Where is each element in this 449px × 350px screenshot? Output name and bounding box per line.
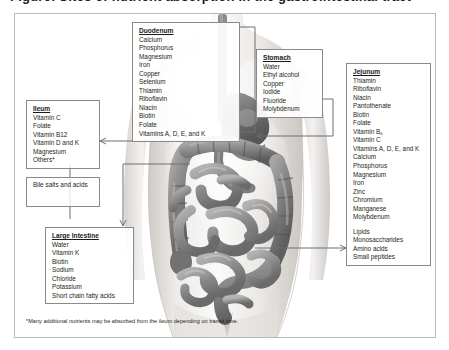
callout-ileum-item: Vitamin B12: [33, 131, 94, 140]
callout-stomach-item: Fluoride: [263, 97, 317, 106]
callout-jejunum: Jejunum Thiamin Riboflavin Niacin Pantot…: [346, 63, 431, 266]
callout-jejunum-item2: Amino acids: [353, 245, 425, 254]
callout-duodenum-item: Magnesium: [139, 53, 234, 62]
callout-jejunum-item: Molybdenum: [353, 213, 425, 222]
callout-duodenum: Duodenum Calcium Phosphorus Magnesium Ir…: [132, 22, 240, 142]
callout-duodenum-item: Vitamins A, D, E, and K: [139, 130, 234, 139]
callout-jejunum-item: Biotin: [353, 111, 425, 120]
callout-stomach-item: Copper: [263, 80, 317, 89]
callout-jejunum-item2: Small peptides: [353, 253, 425, 262]
callout-jejunum-item: Thiamin: [353, 77, 425, 86]
callout-large-intestine-item: Chloride: [52, 275, 128, 284]
callout-large-intestine-item: Biotin: [52, 258, 128, 267]
figure-title-text: Figure: Sites of nutrient absorption in …: [10, 0, 411, 4]
callout-stomach-item: Iodide: [263, 88, 317, 97]
figure-root: Figure: Sites of nutrient absorption in …: [0, 0, 449, 350]
callout-jejunum-item: Phosphorus: [353, 162, 425, 171]
callout-jejunum-item: Calcium: [353, 153, 425, 162]
callout-large-intestine-item: Potassium: [52, 283, 128, 292]
callout-ileum-item: Folate: [33, 122, 94, 131]
callout-jejunum-item: Niacin: [353, 94, 425, 103]
callout-jejunum-item: Chromium: [353, 196, 425, 205]
callout-large-intestine: Large Intestine Water Vitamin K Biotin S…: [45, 227, 134, 304]
callout-duodenum-item: Riboflavin: [139, 95, 234, 104]
callout-jejunum-item: Vitamin C: [353, 136, 425, 145]
callout-jejunum-item: Pantothenate: [353, 102, 425, 111]
callout-jejunum-item: Vitamins A, D, E, and K: [353, 145, 425, 154]
callout-stomach-item: Water: [263, 63, 317, 72]
callout-duodenum-item: Biotin: [139, 112, 234, 121]
callout-duodenum-item: Thiamin: [139, 87, 234, 96]
callout-duodenum-item: Iron: [139, 61, 234, 70]
callout-large-intestine-item: Sodium: [52, 266, 128, 275]
callout-stomach: Stomach Water Ethyl alcohol Copper Iodid…: [256, 49, 323, 118]
callout-large-intestine-item: Vitamin K: [52, 249, 128, 258]
callout-jejunum-heading: Jejunum: [353, 67, 425, 76]
figure-frame: Duodenum Calcium Phosphorus Magnesium Ir…: [14, 13, 436, 338]
callout-stomach-item: Molybdenum: [263, 105, 317, 114]
callout-jejunum-item: Iron: [353, 179, 425, 188]
callout-jejunum-item: Folate: [353, 119, 425, 128]
callout-stomach-item: Ethyl alcohol: [263, 71, 317, 80]
callout-duodenum-item: Copper: [139, 70, 234, 79]
callout-ileum-heading: Ileum: [33, 104, 94, 113]
callout-large-intestine-item: Water: [52, 241, 128, 250]
callout-jejunum-item2: Monosaccharides: [353, 236, 425, 245]
callout-duodenum-item: Niacin: [139, 104, 234, 113]
callout-ileum-item: Vitamin C: [33, 114, 94, 123]
figure-title-clipped: Figure: Sites of nutrient absorption in …: [0, 0, 449, 13]
callout-duodenum-item: Folate: [139, 121, 234, 130]
callout-jejunum-item: Zinc: [353, 188, 425, 197]
callout-jejunum-item2: Lipids: [353, 228, 425, 237]
callout-large-intestine-item: Short chain fatty acids: [52, 292, 128, 301]
callout-bile-salts: Bile salts and acids: [26, 177, 100, 207]
callout-ileum: Ileum Vitamin C Folate Vitamin B12 Vitam…: [26, 100, 100, 169]
callout-jejunum-item: Riboflavin: [353, 85, 425, 94]
callout-stomach-heading: Stomach: [263, 53, 317, 62]
callout-ileum-item: Others*: [33, 156, 94, 165]
callout-bile-salts-text: Bile salts and acids: [33, 181, 94, 190]
callout-jejunum-item: Vitamin B₆: [353, 128, 425, 137]
callout-jejunum-item: Magnesium: [353, 171, 425, 180]
figure-footnote: *Many additional nutrients may be absorb…: [26, 317, 238, 325]
callout-duodenum-item: Calcium: [139, 36, 234, 45]
callout-large-intestine-heading: Large Intestine: [52, 231, 128, 240]
callout-duodenum-item: Phosphorus: [139, 44, 234, 53]
callout-ileum-item: Magnesium: [33, 148, 94, 157]
callout-jejunum-item: Manganese: [353, 205, 425, 214]
callout-duodenum-heading: Duodenum: [139, 26, 234, 35]
callout-ileum-item: Vitamin D and K: [33, 139, 94, 148]
callout-duodenum-item: Selenium: [139, 78, 234, 87]
